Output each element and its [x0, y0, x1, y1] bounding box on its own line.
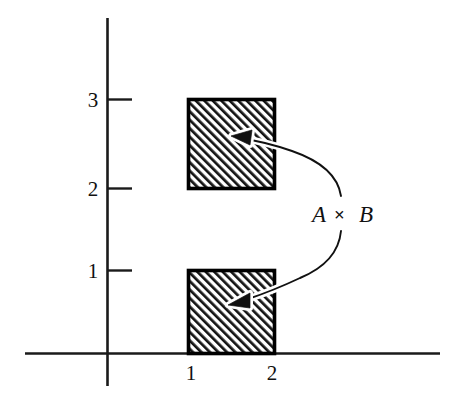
cartesian-product-figure: 3 2 1 1 2 A — [0, 0, 462, 400]
product-label-group: A × B — [305, 198, 385, 228]
product-label-operator: × — [334, 204, 345, 225]
diagram-canvas: 3 2 1 1 2 A — [0, 0, 462, 400]
x-tick-label-2: 2 — [267, 361, 278, 385]
lower-block-region — [189, 271, 275, 354]
y-tick-label-2: 2 — [88, 177, 99, 201]
product-label-set-b: B — [359, 202, 373, 227]
y-tick-label-3: 3 — [88, 88, 99, 112]
product-label-set-a: A — [310, 202, 327, 227]
x-tick-group: 1 2 — [186, 361, 278, 385]
x-tick-label-1: 1 — [186, 361, 197, 385]
y-tick-label-1: 1 — [88, 259, 99, 283]
y-tick-group: 3 2 1 — [88, 88, 132, 283]
